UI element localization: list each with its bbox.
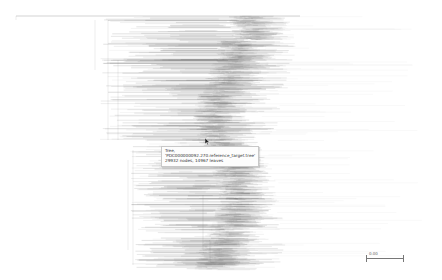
- scale-bar: 0.00: [366, 251, 404, 261]
- scale-bar-line: [366, 258, 404, 259]
- scale-bar-tick-right: [403, 255, 404, 262]
- scale-bar-tick-left: [366, 255, 367, 262]
- scale-bar-label: 0.00: [369, 251, 378, 256]
- tree-canvas[interactable]: [0, 0, 442, 280]
- mouse-pointer-icon: [205, 138, 211, 146]
- tooltip-node-count: 29932 nodes, 14967 leaves: [165, 158, 255, 163]
- tree-tooltip: Tree, 'PDC000000092.270.reference_target…: [161, 146, 259, 167]
